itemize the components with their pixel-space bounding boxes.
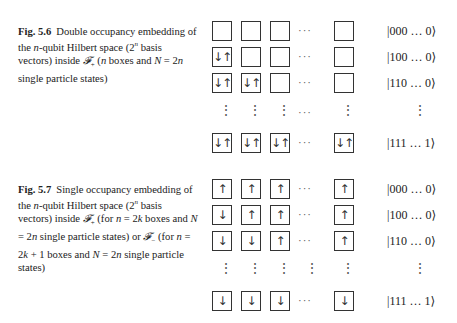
basis-ket-label: |110 … 0⟩ bbox=[387, 234, 436, 249]
figure-caption-5-6: Fig. 5.6Double occupancy embedding of th… bbox=[18, 25, 198, 85]
horizontal-ellipsis: ··· bbox=[298, 208, 312, 220]
vertical-ellipsis: ⋮ bbox=[341, 104, 347, 118]
basis-ket-label: |100 … 0⟩ bbox=[387, 50, 436, 65]
vertical-ellipsis: ⋮ bbox=[277, 262, 283, 276]
occupation-box: ↑ bbox=[212, 179, 232, 199]
occupation-box: ↑ bbox=[270, 205, 290, 225]
horizontal-ellipsis: ··· bbox=[298, 234, 312, 246]
occupation-box bbox=[270, 73, 290, 93]
vertical-ellipsis: ⋮ bbox=[277, 104, 283, 118]
occupation-box: ↑ bbox=[241, 179, 261, 199]
occupation-box: ↓↑ bbox=[212, 47, 232, 67]
basis-ket-label: |111 … 1⟩ bbox=[387, 136, 435, 151]
horizontal-ellipsis: ··· bbox=[298, 182, 312, 194]
occupation-box bbox=[334, 73, 354, 93]
vertical-ellipsis: ⋮ bbox=[248, 104, 254, 118]
occupation-box: ↓↑ bbox=[241, 73, 261, 93]
horizontal-ellipsis: ··· bbox=[298, 106, 312, 118]
figure-label: Fig. 5.7 bbox=[18, 184, 51, 195]
vertical-ellipsis: ⋮ bbox=[248, 262, 254, 276]
occupation-box: ↓ bbox=[212, 291, 232, 311]
occupation-box: ↓↑ bbox=[212, 133, 232, 153]
occupation-box: ↓ bbox=[212, 205, 232, 225]
occupation-box: ↑ bbox=[334, 231, 354, 251]
occupation-box: ↑ bbox=[241, 205, 261, 225]
basis-ket-label: |100 … 0⟩ bbox=[387, 208, 436, 223]
horizontal-ellipsis: ··· bbox=[298, 136, 312, 148]
vertical-ellipsis: ⋮ bbox=[219, 104, 225, 118]
horizontal-ellipsis: ··· bbox=[298, 76, 312, 88]
occupation-box: ↓ bbox=[334, 291, 354, 311]
occupation-box: ↓↑ bbox=[241, 133, 261, 153]
vertical-ellipsis: ⋮ bbox=[341, 262, 347, 276]
vertical-ellipsis: ⋮ bbox=[305, 262, 311, 276]
figure-caption-5-7: Fig. 5.7Single occupancy embedding of th… bbox=[18, 183, 198, 274]
horizontal-ellipsis: ··· bbox=[298, 294, 312, 306]
horizontal-ellipsis: ··· bbox=[298, 50, 312, 62]
occupation-box: ↑ bbox=[270, 179, 290, 199]
occupation-box bbox=[241, 47, 261, 67]
occupation-box bbox=[212, 21, 232, 41]
occupation-box bbox=[241, 21, 261, 41]
occupation-box bbox=[270, 47, 290, 67]
vertical-ellipsis: ⋮ bbox=[219, 262, 225, 276]
occupation-box: ↓ bbox=[212, 231, 232, 251]
basis-ket-label: |110 … 0⟩ bbox=[387, 76, 436, 91]
occupation-box: ↓↑ bbox=[212, 73, 232, 93]
occupation-box: ↓↑ bbox=[270, 133, 290, 153]
occupation-box bbox=[334, 21, 354, 41]
occupation-box bbox=[270, 21, 290, 41]
caption-text: Single occupancy embedding of the n-qubi… bbox=[18, 184, 198, 273]
occupation-box: ↑ bbox=[334, 205, 354, 225]
basis-ket-label: |000 … 0⟩ bbox=[387, 24, 436, 39]
horizontal-ellipsis: ··· bbox=[298, 24, 312, 36]
occupation-box: ↓ bbox=[241, 291, 261, 311]
occupation-box: ↓ bbox=[241, 231, 261, 251]
occupation-box: ↑ bbox=[270, 231, 290, 251]
basis-ket-label: |111 … 1⟩ bbox=[387, 294, 435, 309]
occupation-box bbox=[334, 47, 354, 67]
occupation-box: ↓↑ bbox=[334, 133, 354, 153]
basis-ket-label: |000 … 0⟩ bbox=[387, 182, 436, 197]
vertical-ellipsis: ⋮ bbox=[413, 104, 419, 118]
occupation-box: ↓ bbox=[270, 291, 290, 311]
figure-label: Fig. 5.6 bbox=[18, 26, 51, 37]
vertical-ellipsis: ⋮ bbox=[413, 262, 419, 276]
occupation-box: ↑ bbox=[334, 179, 354, 199]
